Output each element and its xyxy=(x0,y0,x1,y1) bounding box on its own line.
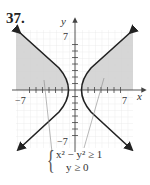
x-tick-label-7: 7 xyxy=(122,95,127,106)
inequality-1: x² − y² ≥ 1 xyxy=(56,148,102,161)
y-tick-label-neg7: −7 xyxy=(57,136,68,147)
brace: { xyxy=(47,146,55,174)
y-axis-label: y xyxy=(60,15,66,27)
x-tick-label-neg7: −7 xyxy=(15,95,26,106)
x-axis-label: x xyxy=(136,90,142,102)
y-tick-label-7: 7 xyxy=(63,31,68,42)
inequality-2: y ≥ 0 xyxy=(66,161,89,174)
